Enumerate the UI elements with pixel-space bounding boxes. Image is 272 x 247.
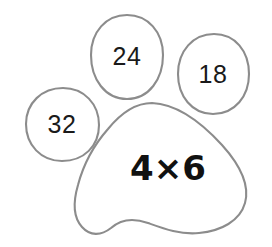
paw-print-figure: 24 18 32 4×6 bbox=[0, 0, 272, 247]
toe-left-label: 32 bbox=[48, 110, 77, 138]
paw-pad-label: 4×6 bbox=[130, 148, 206, 188]
paw-pad: 4×6 bbox=[75, 103, 247, 234]
toe-middle-label: 24 bbox=[113, 42, 142, 70]
toe-middle: 24 bbox=[91, 15, 163, 99]
toe-right: 18 bbox=[178, 34, 249, 114]
paw-print-drawing: 24 18 32 4×6 bbox=[0, 0, 272, 247]
toe-right-label: 18 bbox=[199, 60, 228, 88]
toe-left: 32 bbox=[26, 88, 99, 161]
